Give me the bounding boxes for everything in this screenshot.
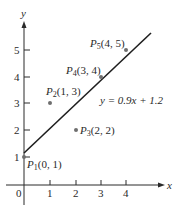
point-label-p3: P3(2, 2) [79, 124, 115, 138]
y-axis-label: y [20, 7, 26, 19]
point-p5 [124, 48, 128, 52]
x-tick-label-3: 3 [98, 187, 104, 199]
point-label-p1: P1(0, 1) [26, 158, 62, 172]
axes [6, 26, 160, 205]
x-axis-arrow-icon [158, 183, 165, 188]
point-p2 [48, 101, 52, 105]
point-p1 [22, 155, 26, 159]
x-tick-label-4: 4 [123, 187, 129, 199]
y-tick-label-4: 4 [14, 71, 20, 83]
y-tick-label-2: 2 [14, 124, 20, 136]
point-label-p2: P2(1, 3) [45, 85, 81, 99]
chart: x y 0 1 2 3 4 1 2 3 4 5 P1(0, 1) P2(1, 3… [0, 0, 179, 207]
x-tick-label-1: 1 [47, 187, 53, 199]
point-label-p4: P4(3, 4) [65, 64, 101, 78]
point-p3 [74, 128, 78, 132]
y-axis-arrow-icon [22, 21, 27, 28]
origin-label: 0 [16, 187, 22, 199]
y-tick-label-5: 5 [14, 44, 20, 56]
x-tick-label-2: 2 [73, 187, 79, 199]
equation-label: y = 0.9x + 1.2 [99, 94, 164, 106]
y-tick-label-1: 1 [14, 151, 20, 163]
y-tick-label-3: 3 [14, 97, 20, 109]
x-axis-label: x [166, 179, 172, 191]
point-label-p5: P5(4, 5) [89, 37, 125, 51]
